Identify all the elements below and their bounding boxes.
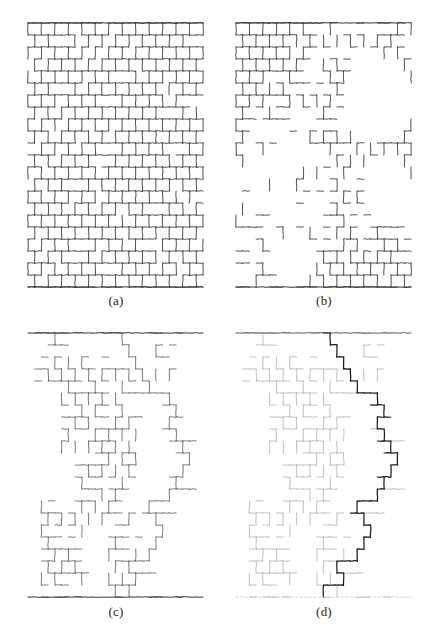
panel-d [234,330,413,600]
panel-caption-a: (a) [76,293,156,309]
lattice-b [234,20,413,290]
panel-caption-c: (c) [76,604,156,620]
panel-caption-d: (d) [284,604,364,620]
panel-a [26,20,205,290]
lattice-c [26,330,205,600]
percolation-figure: (a) (b) (c) (d) [0,0,439,640]
panel-c [26,330,205,600]
lattice-d [234,330,413,600]
panel-b [234,20,413,290]
panel-caption-b: (b) [284,293,364,309]
lattice-a [26,20,205,290]
